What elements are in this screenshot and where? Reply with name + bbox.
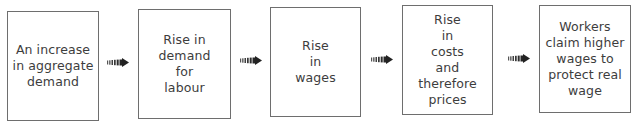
- flow-box-label: Workers claim higher wages to protect re…: [546, 19, 625, 99]
- flow-box-wage-claims: Workers claim higher wages to protect re…: [539, 5, 631, 113]
- flow-box-label: Rise in wages: [295, 38, 336, 86]
- flow-box-costs-prices: Rise in costs and therefore prices: [402, 5, 493, 115]
- flow-box-label: Rise in costs and therefore prices: [418, 12, 477, 108]
- striped-arrow-icon: [508, 54, 530, 63]
- flow-box-aggregate-demand: An increase in aggregate demand: [7, 11, 99, 121]
- striped-arrow-icon: [107, 58, 129, 67]
- flow-box-label: An increase in aggregate demand: [13, 42, 94, 90]
- flow-box-label: Rise in demand for labour: [159, 32, 211, 96]
- striped-arrow-icon: [240, 56, 262, 65]
- flow-box-labour-demand: Rise in demand for labour: [138, 9, 231, 119]
- flow-box-wages: Rise in wages: [270, 7, 361, 117]
- striped-arrow-icon: [371, 55, 393, 64]
